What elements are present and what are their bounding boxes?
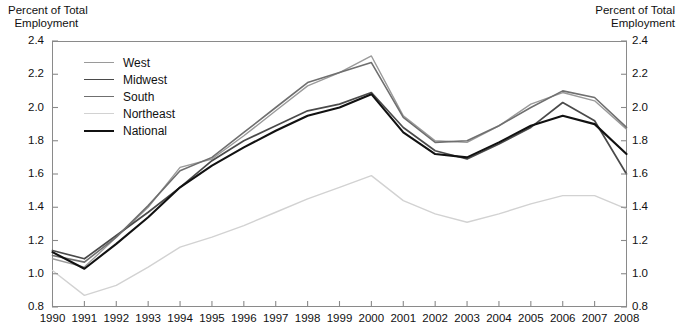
legend-label: National bbox=[123, 124, 167, 138]
y-axis-tick-label: 1.4 bbox=[18, 200, 44, 212]
legend-item-south: South bbox=[84, 88, 175, 105]
y-axis-tick-label-right: 1.6 bbox=[632, 167, 658, 179]
legend-label: West bbox=[123, 56, 150, 70]
y-axis-tick-label: 2.0 bbox=[18, 101, 44, 113]
chart-legend: WestMidwestSouthNortheastNational bbox=[84, 54, 175, 139]
y-axis-tick-label: 1.0 bbox=[18, 267, 44, 279]
x-axis-tick-label: 2008 bbox=[607, 312, 647, 324]
y-axis-tick-label: 2.2 bbox=[18, 67, 44, 79]
right-axis-title: Percent of Total Employment bbox=[595, 4, 675, 30]
y-axis-tick-label-right: 2.4 bbox=[632, 34, 658, 46]
legend-swatch-icon bbox=[84, 113, 114, 114]
y-axis-tick-label-right: 0.8 bbox=[632, 300, 658, 312]
legend-label: South bbox=[123, 90, 154, 104]
legend-swatch-icon bbox=[84, 130, 114, 132]
legend-swatch-icon bbox=[84, 79, 114, 80]
series-line-northeast bbox=[53, 176, 627, 296]
y-axis-tick-label-right: 2.2 bbox=[632, 67, 658, 79]
legend-item-west: West bbox=[84, 54, 175, 71]
legend-item-midwest: Midwest bbox=[84, 71, 175, 88]
chart-figure: Percent of Total Employment Percent of T… bbox=[0, 0, 681, 328]
y-axis-tick-label: 1.2 bbox=[18, 234, 44, 246]
y-axis-tick-label-right: 1.2 bbox=[632, 234, 658, 246]
legend-swatch-icon bbox=[84, 96, 114, 97]
legend-label: Midwest bbox=[123, 73, 167, 87]
legend-item-national: National bbox=[84, 122, 175, 139]
y-axis-tick-label-right: 1.8 bbox=[632, 134, 658, 146]
y-axis-tick-label-right: 2.0 bbox=[632, 101, 658, 113]
y-axis-tick-label: 0.8 bbox=[18, 300, 44, 312]
legend-swatch-icon bbox=[84, 62, 114, 63]
y-axis-tick-label: 2.4 bbox=[18, 34, 44, 46]
legend-item-northeast: Northeast bbox=[84, 105, 175, 122]
y-axis-tick-label: 1.6 bbox=[18, 167, 44, 179]
legend-label: Northeast bbox=[123, 107, 175, 121]
left-axis-title: Percent of Total Employment bbox=[8, 4, 88, 30]
y-axis-tick-label: 1.8 bbox=[18, 134, 44, 146]
y-axis-tick-label-right: 1.4 bbox=[632, 200, 658, 212]
y-axis-tick-label-right: 1.0 bbox=[632, 267, 658, 279]
